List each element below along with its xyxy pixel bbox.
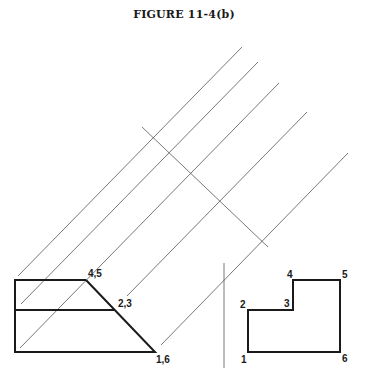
projection-line-1 [18,47,242,276]
label-1: 1 [241,354,247,365]
projection-line-5 [161,153,348,345]
projection-diagram: 4,5 2,3 1,6 1 2 3 4 5 6 [0,0,368,386]
side-view [248,280,340,352]
label-3: 3 [284,298,290,309]
label-2: 2 [240,299,246,310]
reference-line-diagonal [142,127,268,247]
side-view-outline [248,280,340,352]
label-2-3: 2,3 [118,298,132,309]
label-4-5: 4,5 [88,268,102,279]
label-1-6: 1,6 [156,354,170,365]
label-4: 4 [287,269,293,280]
projection-lines [18,47,348,368]
front-view-outline [15,280,155,352]
label-6: 6 [342,353,348,364]
projection-line-2 [21,62,258,304]
projection-line-4 [127,112,307,296]
label-5: 5 [342,269,348,280]
front-view [15,280,155,352]
